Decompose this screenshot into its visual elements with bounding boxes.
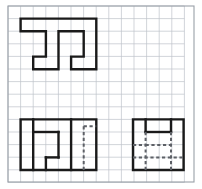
worksheet-sheet <box>0 0 202 189</box>
orthographic-drawing <box>0 0 202 189</box>
drawing-surface <box>0 0 202 189</box>
